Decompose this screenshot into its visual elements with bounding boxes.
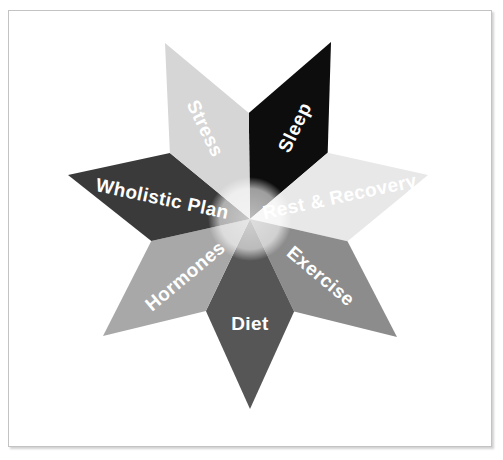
petal-label-diet: Diet (231, 313, 269, 334)
star-diagram: SleepRest & RecoveryExerciseDietHormones… (0, 0, 503, 460)
screenshot-canvas: SleepRest & RecoveryExerciseDietHormones… (0, 0, 503, 460)
